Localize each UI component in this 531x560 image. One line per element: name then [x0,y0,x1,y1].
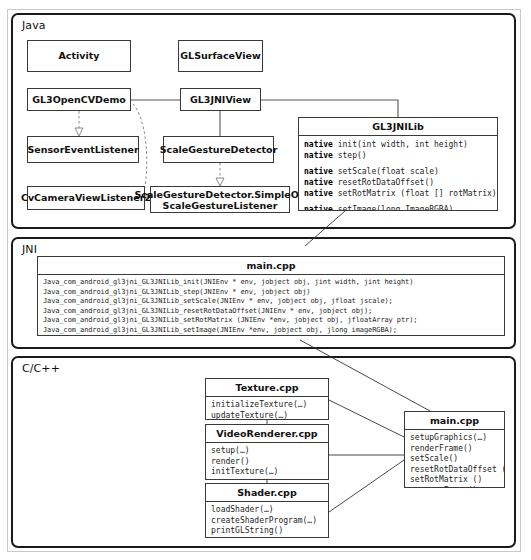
videorenderer-function-0: setup(…) [211,446,323,457]
jni-main-function-2: Java_com_android_gl3jni_GL3JNILib_setSca… [43,297,499,307]
layer-java-label: Java [22,19,46,32]
class-jni-main-cpp-title: main.cpp [38,257,504,275]
class-cpp-main-cpp-functions: setupGraphics(…)renderFrame()setScale()r… [405,430,504,487]
gl3jnilib-member-signature-3: setScale(float scale) [333,167,439,176]
videorenderer-function-2: initTexture(…) [211,467,323,478]
class-activity-label: Activity [55,50,104,62]
architecture-diagram: Java Activity GLSurfaceView GL3OpenCVDem… [0,0,531,560]
jni-main-function-0: Java_com_android_gl3jni_GL3JNILib_init(J… [43,278,499,288]
layer-jni-label: JNI [22,243,37,256]
shader-function-3: checkGlError() [211,537,323,538]
jni-main-function-4: Java_com_android_gl3jni_GL3JNILib_setRot… [43,316,499,326]
class-simpleonscalegesturelistener-label-line1: ScaleGestureDetector.SimpleOn [130,189,309,200]
gl3jnilib-member-4: native resetRotDataOffset() [304,177,492,188]
shader-function-1: createShaderProgram(…) [211,516,323,527]
shader-function-2: printGLString() [211,526,323,537]
class-gl3opencvdemo[interactable]: GL3OpenCVDemo [27,88,131,111]
class-texture-cpp[interactable]: Texture.cpp initializeTexture(…)updateTe… [205,378,329,420]
class-gl3jnilib-members: native init(int width, int height)native… [299,136,497,210]
class-videorenderer-cpp-functions: setup(…)render()initTexture(…) [206,443,328,479]
class-cpp-main-cpp[interactable]: main.cpp setupGraphics(…)renderFrame()se… [404,411,505,488]
class-simpleonscalegesturelistener[interactable]: ScaleGestureDetector.SimpleOn ScaleGestu… [150,186,290,213]
texture-function-1: updateTexture(…) [211,411,323,420]
gl3jnilib-member-3: native setScale(float scale) [304,166,492,177]
jni-main-function-3: Java_com_android_gl3jni_GL3JNILib_resetR… [43,307,499,317]
gl3jnilib-member-5: native setRotMatrix (float [] rotMatrix) [304,188,492,199]
gl3jnilib-member-keyword-0: native [304,140,333,149]
videorenderer-function-1: render() [211,457,323,468]
gl3jnilib-member-signature-5: setRotMatrix (float [] rotMatrix) [333,189,497,198]
class-gl3jniview-label: GL3JNIView [186,94,255,106]
gl3jnilib-member-7: native setImage(long ImageRGBA) [304,204,492,210]
gl3jnilib-member-keyword-4: native [304,178,333,187]
texture-function-0: initializeTexture(…) [211,400,323,411]
class-gl3jnilib[interactable]: GL3JNILib native init(int width, int hei… [298,117,498,211]
class-cpp-main-cpp-title: main.cpp [405,412,504,430]
class-cvcameraviewlistener2[interactable]: CvCameraViewListener2 [27,186,145,210]
cpp-main-function-3: resetRotDataOffset () [410,465,499,476]
layer-cpp-label: C/C++ [22,362,60,375]
class-glsurfaceview-label: GLSurfaceView [176,50,264,62]
class-scalegesturedetector[interactable]: ScaleGestureDetector [163,136,274,163]
class-videorenderer-cpp[interactable]: VideoRenderer.cpp setup(…)render()initTe… [205,424,329,480]
gl3jnilib-member-signature-4: resetRotDataOffset() [333,178,434,187]
class-glsurfaceview[interactable]: GLSurfaceView [178,40,263,72]
class-shader-cpp[interactable]: Shader.cpp loadShader(…)createShaderProg… [205,483,329,538]
gl3jnilib-member-signature-0: init(int width, int height) [333,140,468,149]
class-gl3jnilib-title: GL3JNILib [299,118,497,136]
cpp-main-function-0: setupGraphics(…) [410,433,499,444]
class-activity[interactable]: Activity [27,40,131,72]
class-scalegesturedetector-label: ScaleGestureDetector [156,144,282,156]
gl3jnilib-member-1: native step() [304,150,492,161]
class-gl3opencvdemo-label: GL3OpenCVDemo [28,94,130,106]
class-shader-cpp-functions: loadShader(…)createShaderProgram(…)print… [206,502,328,537]
class-sensoreventlistener-label: SensorEventListener [23,144,142,156]
class-texture-cpp-title: Texture.cpp [206,379,328,397]
class-gl3jniview[interactable]: GL3JNIView [180,88,261,111]
class-jni-main-cpp-functions: Java_com_android_gl3jni_GL3JNILib_init(J… [38,275,504,335]
class-sensoreventlistener[interactable]: SensorEventListener [27,136,139,163]
cpp-main-function-2: setScale() [410,454,499,465]
jni-main-function-1: Java_com_android_gl3jni_GL3JNILib_step(J… [43,288,499,298]
jni-main-function-5: Java_com_android_gl3jni_GL3JNILib_setIma… [43,326,499,335]
shader-function-0: loadShader(…) [211,505,323,516]
gl3jnilib-member-signature-7: setImage(long ImageRGBA) [333,205,453,210]
cpp-main-function-1: renderFrame() [410,444,499,455]
gl3jnilib-member-0: native init(int width, int height) [304,139,492,150]
class-shader-cpp-title: Shader.cpp [206,484,328,502]
class-jni-main-cpp[interactable]: main.cpp Java_com_android_gl3jni_GL3JNIL… [37,256,505,336]
class-simpleonscalegesturelistener-label-line2: ScaleGestureListener [159,200,282,211]
gl3jnilib-member-keyword-7: native [304,205,333,210]
class-texture-cpp-functions: initializeTexture(…)updateTexture(…) [206,397,328,419]
gl3jnilib-member-keyword-3: native [304,167,333,176]
cpp-main-function-4: setRotMatrix () [410,475,499,486]
gl3jnilib-member-signature-1: step() [333,151,367,160]
cpp-main-function-5: processFrame() [410,486,499,488]
class-videorenderer-cpp-title: VideoRenderer.cpp [206,425,328,443]
